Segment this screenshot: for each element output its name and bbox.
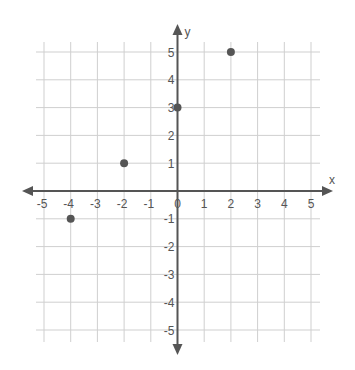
y-axis-label: y	[185, 25, 191, 39]
y-tick-label: -5	[164, 324, 175, 338]
y-tick-label: 4	[168, 73, 175, 87]
y-tick-label: 5	[168, 46, 175, 60]
y-tick-label: -3	[164, 268, 175, 282]
x-tick-label: -1	[143, 197, 154, 211]
data-point	[174, 104, 182, 112]
data-point	[227, 48, 235, 56]
y-tick-label: -2	[164, 240, 175, 254]
y-tick-label: -1	[164, 212, 175, 226]
x-tick-label: -4	[63, 197, 74, 211]
coordinate-plane: -5-4-3-2-1012345-5-4-3-2-112345 x y	[0, 0, 355, 370]
x-tick-label: -5	[37, 197, 48, 211]
data-point	[120, 159, 128, 167]
x-tick-label: -3	[90, 197, 101, 211]
arrow-up-icon	[173, 24, 183, 35]
y-tick-label: 1	[168, 157, 175, 171]
x-tick-label: 2	[228, 197, 235, 211]
x-tick-label: 4	[281, 197, 288, 211]
x-tick-label: 0	[174, 197, 181, 211]
x-axis-label: x	[329, 173, 335, 187]
axes	[22, 24, 333, 355]
y-tick-label: -4	[164, 296, 175, 310]
y-tick-label: 2	[168, 129, 175, 143]
arrow-right-icon	[322, 186, 333, 196]
x-tick-label: 3	[254, 197, 261, 211]
x-tick-label: 1	[201, 197, 208, 211]
data-point	[67, 215, 75, 223]
x-tick-label: 5	[308, 197, 315, 211]
arrow-left-icon	[22, 186, 33, 196]
arrow-down-icon	[173, 344, 183, 355]
x-tick-label: -2	[117, 197, 128, 211]
